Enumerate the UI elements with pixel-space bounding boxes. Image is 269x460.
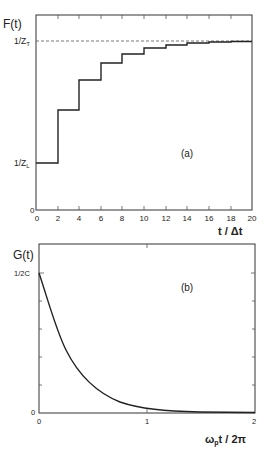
panel-a-frame [36, 15, 252, 210]
panel-a-top-ticks [58, 15, 231, 19]
ytick-1-over-2c: 1/2C [14, 269, 30, 278]
ytick-1-over-zl: 1/ZL [14, 158, 30, 169]
xtick-label: 2 [56, 214, 61, 223]
panel-a-xtick-labels: 0 2 4 6 8 10 12 14 16 18 20 [35, 214, 257, 223]
ytick-zero-b: 0 [31, 408, 35, 417]
ytick-1-over-zt: 1/ZT [14, 36, 30, 47]
xtick-label: 6 [99, 214, 104, 223]
xtick-label: 0 [37, 417, 41, 426]
figure: F(t) 1/ZT 1/ZL 0 0 2 4 6 8 10 12 14 16 1… [0, 0, 269, 460]
xtick-label: 2 [252, 417, 256, 426]
panel-b-ylabel: G(t) [13, 248, 34, 262]
xtick-label: 10 [140, 214, 149, 223]
xtick-label: 16 [205, 214, 214, 223]
panel-b-frame [39, 244, 255, 413]
xtick-label: 20 [248, 214, 257, 223]
xtick-label: 0 [35, 214, 40, 223]
xtick-label: 18 [227, 214, 236, 223]
xtick-label: 8 [120, 214, 125, 223]
panel-a-xlabel: t / Δt [218, 225, 243, 237]
panel-b-xtick-labels: 0 1 2 [37, 417, 256, 426]
panel-b-xlabel: ωpt / 2π [205, 433, 247, 447]
panel-b-left-ticks [39, 273, 44, 385]
xtick-label: 1 [145, 417, 149, 426]
panel-a: F(t) 1/ZT 1/ZL 0 0 2 4 6 8 10 12 14 16 1… [3, 15, 257, 237]
panel-a-ylabel: F(t) [3, 17, 22, 31]
xtick-label: 4 [77, 214, 82, 223]
panel-b-tag: (b) [181, 282, 193, 293]
panel-b-right-ticks [251, 273, 255, 385]
panel-b: G(t) 1/2C 0 0 1 2 ωpt / 2π (b) [13, 244, 256, 447]
decay-curve-g [39, 273, 255, 413]
panel-a-bottom-ticks [58, 206, 231, 210]
step-curve-f [36, 42, 252, 164]
xtick-label: 14 [183, 214, 192, 223]
xtick-label: 12 [162, 214, 171, 223]
panel-a-tag: (a) [181, 148, 193, 159]
